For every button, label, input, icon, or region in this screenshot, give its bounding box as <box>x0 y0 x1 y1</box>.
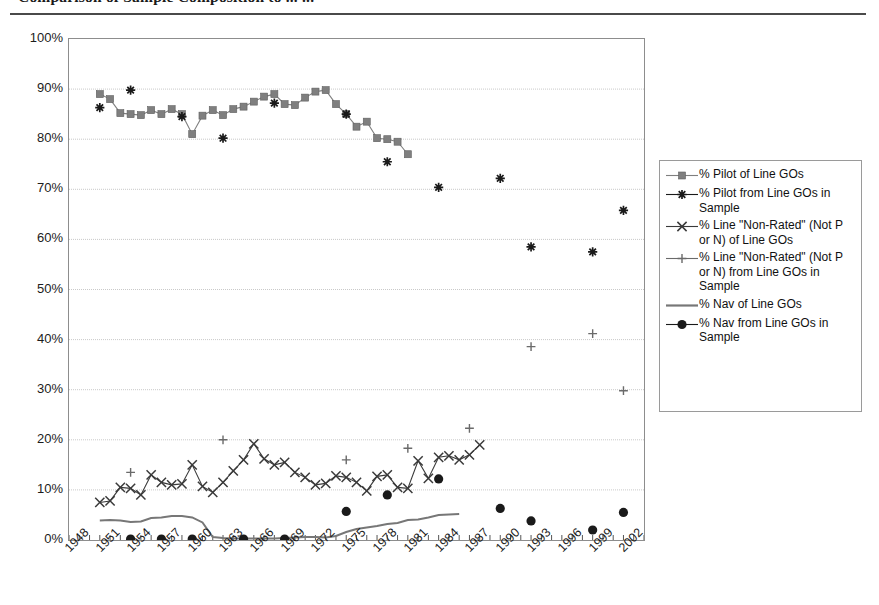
legend-item[interactable]: % Pilot of Line GOs <box>665 167 856 183</box>
data-point-square <box>199 112 206 119</box>
data-point-x <box>249 439 258 448</box>
data-point-x <box>157 478 166 487</box>
data-point-asterisk <box>526 242 535 251</box>
data-point-square <box>332 101 339 108</box>
y-axis-tick-label: 60% <box>3 230 63 245</box>
data-point-square <box>302 94 309 101</box>
data-point-x <box>218 478 227 487</box>
y-axis-tick-label: 90% <box>3 80 63 95</box>
data-point-square <box>189 131 196 138</box>
legend-item[interactable]: % Line "Non-Rated" (Not P or N) of Line … <box>665 218 856 247</box>
data-point-square <box>353 123 360 130</box>
data-point-square <box>127 111 134 118</box>
data-point-x <box>270 460 279 469</box>
data-point-x <box>455 455 464 464</box>
data-point-square <box>312 88 319 95</box>
data-point-square <box>158 111 165 118</box>
data-point-x <box>259 454 268 463</box>
data-point-asterisk <box>177 112 186 121</box>
data-point-circle <box>526 516 535 525</box>
data-point-plus <box>527 342 536 351</box>
data-point-plus <box>465 424 474 433</box>
data-point-asterisk <box>218 134 227 143</box>
data-point-square <box>117 110 124 117</box>
y-axis-tick-label: 30% <box>3 381 63 396</box>
series--pilot-of-line-gos <box>96 87 411 158</box>
data-point-circle <box>342 507 351 516</box>
y-axis-tick-label: 0% <box>3 531 63 546</box>
legend-item-label: % Line "Non-Rated" (Not P or N) from Lin… <box>699 250 856 294</box>
series--line-non-rated-not-p-or-n-from-line-gos-in-sample <box>126 329 628 477</box>
data-point-x <box>208 488 217 497</box>
data-point-square <box>394 138 401 145</box>
plot-area <box>68 38 645 541</box>
data-point-square <box>209 107 216 114</box>
data-point-x <box>352 478 361 487</box>
data-point-square <box>322 87 329 94</box>
data-point-asterisk <box>434 183 443 192</box>
legend-item-label: % Nav from Line GOs in Sample <box>699 316 856 345</box>
x-axis-labels: 1948195119541957196019631966196919721975… <box>68 545 645 605</box>
data-point-plus <box>588 329 597 338</box>
data-point-x <box>465 450 474 459</box>
data-point-square <box>240 103 247 110</box>
legend-item[interactable]: % Nav from Line GOs in Sample <box>665 316 856 345</box>
data-point-square <box>271 91 278 98</box>
data-point-square <box>137 112 144 119</box>
data-point-x <box>136 490 145 499</box>
series-line <box>100 444 480 503</box>
legend-marker-square-icon <box>665 168 699 183</box>
data-point-asterisk <box>270 99 279 108</box>
data-point-x <box>301 473 310 482</box>
chart-legend: % Pilot of Line GOs% Pilot from Line GOs… <box>659 160 862 412</box>
legend-item[interactable]: % Line "Non-Rated" (Not P or N) from Lin… <box>665 250 856 294</box>
title-divider <box>10 13 866 15</box>
y-axis-tick-label: 70% <box>3 180 63 195</box>
data-point-square <box>148 107 155 114</box>
legend-marker-none-icon <box>665 298 699 313</box>
data-point-square <box>384 136 391 143</box>
data-point-plus <box>219 435 228 444</box>
data-point-square <box>168 106 175 113</box>
data-point-x <box>424 474 433 483</box>
series--line-non-rated-not-p-or-n-of-line-gos <box>95 439 484 507</box>
data-point-square <box>250 98 257 105</box>
data-point-plus <box>126 468 135 477</box>
data-point-asterisk <box>342 110 351 119</box>
data-point-square <box>96 91 103 98</box>
legend-item[interactable]: % Pilot from Line GOs in Sample <box>665 186 856 215</box>
y-axis-tick-label: 80% <box>3 130 63 145</box>
data-point-square <box>281 101 288 108</box>
data-point-square <box>220 112 227 119</box>
data-point-plus <box>678 254 687 263</box>
y-axis-tick-label: 10% <box>3 481 63 496</box>
legend-marker-asterisk-icon <box>665 187 699 202</box>
page-title: Comparison of Sample Composition to ... … <box>18 0 638 6</box>
legend-item[interactable]: % Nav of Line GOs <box>665 297 856 313</box>
data-point-circle <box>619 508 628 517</box>
data-point-asterisk <box>126 86 135 95</box>
data-point-square <box>291 102 298 109</box>
data-point-asterisk <box>95 103 104 112</box>
plot-svg <box>69 39 644 540</box>
data-point-circle <box>434 474 443 483</box>
y-axis-tick-label: 40% <box>3 331 63 346</box>
data-point-asterisk <box>496 174 505 183</box>
data-point-square <box>230 106 237 113</box>
chart-page: Comparison of Sample Composition to ... … <box>0 0 879 605</box>
legend-item-label: % Nav of Line GOs <box>699 297 802 312</box>
legend-marker-plus-icon <box>665 251 699 266</box>
data-point-x <box>414 456 423 465</box>
data-point-square <box>679 172 686 179</box>
data-point-square <box>107 96 114 103</box>
data-point-x <box>239 455 248 464</box>
legend-marker-circle-icon <box>665 317 699 332</box>
data-point-plus <box>342 455 351 464</box>
data-point-x <box>229 466 238 475</box>
data-point-circle <box>496 504 505 513</box>
data-point-x <box>362 486 371 495</box>
data-point-circle <box>677 319 686 328</box>
data-point-asterisk <box>677 190 686 199</box>
data-point-x <box>290 468 299 477</box>
y-axis-tick-label: 50% <box>3 281 63 296</box>
